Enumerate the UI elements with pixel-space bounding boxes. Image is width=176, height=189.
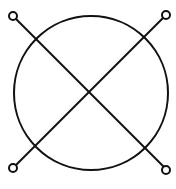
terminal-top-left xyxy=(9,12,17,20)
terminal-bottom-left xyxy=(9,164,17,172)
terminal-bottom-right xyxy=(162,166,170,174)
diagram-canvas xyxy=(0,0,176,189)
terminal-top-right xyxy=(162,11,170,19)
